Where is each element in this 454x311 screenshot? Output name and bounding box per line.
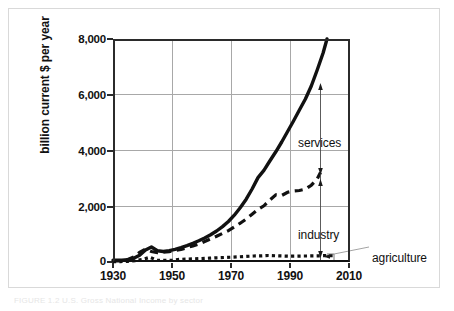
x-tick-label-1990: 1990 bbox=[260, 270, 320, 282]
y-tick-label-2000: 2,000 bbox=[42, 202, 106, 214]
annotation-agriculture: agriculture bbox=[372, 252, 427, 264]
x-tick-label-1970: 1970 bbox=[201, 270, 261, 282]
x-tick-mark-2010 bbox=[348, 263, 350, 268]
x-tick-mark-1990 bbox=[289, 263, 291, 268]
y-tick-label-8000: 8,000 bbox=[42, 34, 106, 46]
y-tick-label-0: 0 bbox=[42, 256, 106, 268]
x-tick-label-1930: 1930 bbox=[83, 270, 143, 282]
x-tick-mark-1970 bbox=[230, 263, 232, 268]
x-tick-mark-1930 bbox=[112, 263, 114, 268]
x-tick-mark-1950 bbox=[171, 263, 173, 268]
annotation-industry: industry bbox=[298, 229, 339, 241]
y-tick-label-6000: 6,000 bbox=[42, 90, 106, 102]
x-tick-label-1950: 1950 bbox=[142, 270, 202, 282]
figure-caption: FIGURE 1.2 U.S. Gross National Income by… bbox=[14, 296, 444, 305]
y-axis-label: billion current $ per year bbox=[38, 5, 52, 165]
chart-figure: billion current $ per year 8,000 6,000 4… bbox=[0, 0, 454, 295]
y-tick-label-4000: 4,000 bbox=[42, 146, 106, 158]
annotation-services: services bbox=[298, 137, 341, 149]
x-tick-label-2010: 2010 bbox=[319, 270, 379, 282]
